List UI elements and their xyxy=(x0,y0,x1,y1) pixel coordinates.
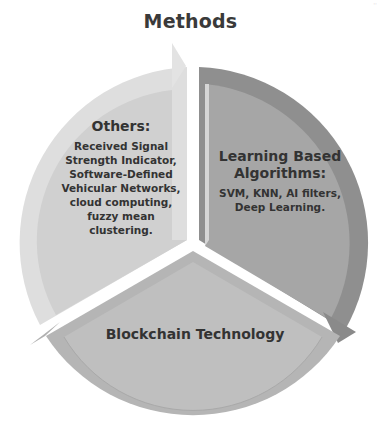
learning-line-2: Deep Learning. xyxy=(205,200,355,214)
others-line-4: Vehicular Networks, xyxy=(46,181,196,195)
others-heading: Others: xyxy=(46,118,196,135)
others-line-2: Strength Indicator, xyxy=(46,153,196,167)
label-others: Others: Received Signal Strength Indicat… xyxy=(46,118,196,237)
others-line-5: cloud computing, xyxy=(46,195,196,209)
learning-heading-1: Learning Based xyxy=(205,148,355,165)
others-line-1: Received Signal xyxy=(46,139,196,153)
learning-line-1: SVM, KNN, AI filters, xyxy=(205,186,355,200)
label-learning: Learning Based Algorithms: SVM, KNN, AI … xyxy=(205,148,355,214)
corner-mark: ·· xyxy=(373,0,377,7)
others-line-7: clustering. xyxy=(46,223,196,237)
blockchain-heading: Blockchain Technology xyxy=(100,326,290,343)
diagram-title: Methods xyxy=(0,10,381,32)
learning-heading-2: Algorithms: xyxy=(205,165,355,182)
others-line-6: fuzzy mean xyxy=(46,209,196,223)
label-blockchain: Blockchain Technology xyxy=(100,326,290,343)
others-line-3: Software-Defined xyxy=(46,167,196,181)
